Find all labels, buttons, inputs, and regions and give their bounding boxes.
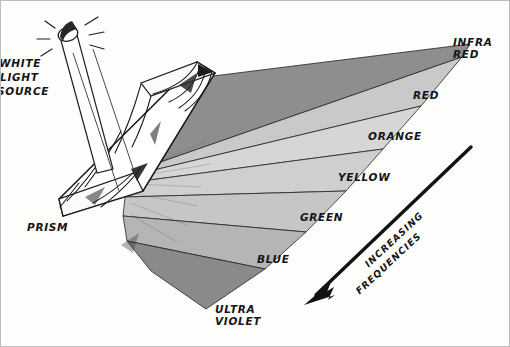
white-light-source-line-3: SOURCE bbox=[0, 86, 49, 98]
white-light-source-line-1: WHITE bbox=[0, 58, 41, 70]
infrared-line-2: RED bbox=[453, 48, 479, 60]
infrared-line-1: INFRA bbox=[453, 36, 493, 48]
spectrum-label-ultraviolet: ULTRAVIOLET bbox=[215, 304, 261, 328]
spectrum-label-blue: BLUE bbox=[257, 254, 290, 266]
spectrum-label-green: GREEN bbox=[300, 212, 343, 224]
prism-label: PRISM bbox=[27, 222, 68, 234]
ultraviolet-line-1: ULTRA bbox=[215, 303, 255, 315]
spectrum-label-orange: ORANGE bbox=[368, 131, 422, 143]
spectrum-label-red: RED bbox=[413, 90, 439, 102]
ultraviolet-line-2: VIOLET bbox=[215, 315, 261, 327]
figure-canvas: WHITE LIGHT SOURCE PRISM INFRARED RED OR… bbox=[0, 0, 510, 347]
spectrum-label-infrared: INFRARED bbox=[453, 37, 493, 61]
prism-dispersion-illustration bbox=[1, 1, 510, 347]
white-light-source-line-2: LIGHT bbox=[0, 72, 39, 84]
spectrum-label-yellow: YELLOW bbox=[338, 172, 391, 184]
